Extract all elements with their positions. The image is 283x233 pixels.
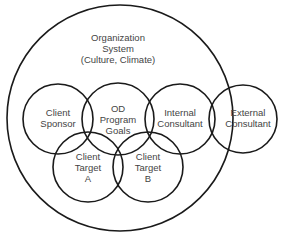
svg-text:Target: Target xyxy=(75,162,102,173)
svg-text:External: External xyxy=(231,107,266,118)
internal-consultant-label: Internal Consultant xyxy=(157,107,203,129)
svg-text:Organization: Organization xyxy=(91,32,145,43)
svg-text:Program: Program xyxy=(100,114,137,125)
external-consultant-label: External Consultant xyxy=(225,107,271,129)
svg-text:Client: Client xyxy=(136,151,161,162)
svg-text:Consultant: Consultant xyxy=(157,118,203,129)
svg-text:A: A xyxy=(85,173,92,184)
svg-text:Sponsor: Sponsor xyxy=(40,118,75,129)
svg-text:Consultant: Consultant xyxy=(225,118,271,129)
organization-system-label: Organization System (Culture, Climate) xyxy=(81,32,155,65)
od-program-goals-label: OD Program Goals xyxy=(100,103,137,136)
svg-text:Client: Client xyxy=(76,151,101,162)
svg-text:Goals: Goals xyxy=(106,125,131,136)
client-sponsor-label: Client Sponsor xyxy=(40,107,75,129)
svg-text:Client: Client xyxy=(46,107,71,118)
svg-text:OD: OD xyxy=(111,103,125,114)
svg-text:B: B xyxy=(145,173,151,184)
svg-text:Internal: Internal xyxy=(164,107,196,118)
od-venn-diagram: Organization System (Culture, Climate) C… xyxy=(0,0,283,233)
svg-text:(Culture, Climate): (Culture, Climate) xyxy=(81,54,155,65)
svg-text:System: System xyxy=(102,43,134,54)
svg-text:Target: Target xyxy=(135,162,162,173)
client-target-b-label: Client Target B xyxy=(135,151,162,184)
client-target-a-label: Client Target A xyxy=(75,151,102,184)
